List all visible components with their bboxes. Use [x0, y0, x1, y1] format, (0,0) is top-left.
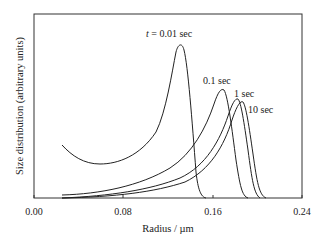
annotation-1-sec: 1 sec: [234, 88, 255, 99]
x-tick-label: 0.16: [204, 206, 222, 217]
x-axis-title: Radius / µm: [142, 223, 194, 234]
x-tick-labels: 0.00 0.08 0.16 0.24: [25, 206, 311, 217]
chart: 0.00 0.08 0.16 0.24 Radius / µm Size dis…: [0, 0, 326, 241]
annotation-t-value: = 0.01 sec: [149, 28, 193, 39]
x-tick-label: 0.24: [293, 206, 311, 217]
curve-0.1-sec: [62, 90, 248, 198]
annotation-t-0.01-sec: t = 0.01 sec: [146, 28, 193, 39]
curve-t-0.01-sec: [62, 45, 206, 198]
annotation-10-sec: 10 sec: [248, 104, 274, 115]
curve-1-sec: [62, 99, 260, 198]
y-axis-title: Size distribution (arbitrary units): [14, 37, 26, 175]
x-tick-label: 0.00: [25, 206, 43, 217]
x-tick-label: 0.08: [114, 206, 132, 217]
annotation-0.1-sec: 0.1 sec: [203, 75, 231, 86]
